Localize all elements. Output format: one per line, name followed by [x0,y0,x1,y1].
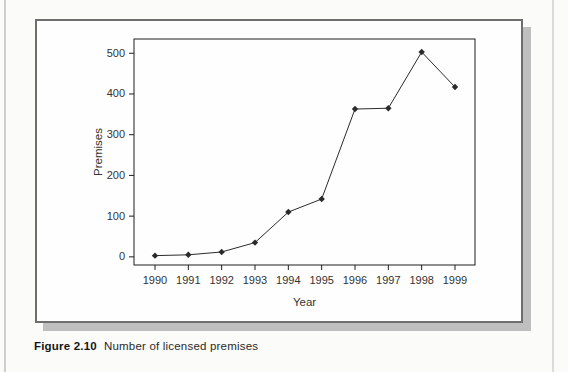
x-tick-label: 1991 [176,274,200,286]
x-tick-label: 1999 [443,274,467,286]
x-tick-label: 1994 [276,274,300,286]
y-tick-label: 400 [107,87,125,99]
x-tick-label: 1998 [409,274,433,286]
y-tick-label: 500 [107,47,125,59]
x-tick-label: 1992 [209,274,233,286]
scanned-page: 0100200300400500199019911992199319941995… [0,0,568,372]
data-point-marker [152,252,158,258]
x-tick-label: 1990 [143,274,167,286]
data-point-marker [318,196,324,202]
data-point-marker [352,106,358,112]
page-edge-right [552,0,554,372]
figure-box: 0100200300400500199019911992199319941995… [35,19,523,323]
x-axis-title: Year [293,296,316,308]
x-tick-label: 1993 [243,274,267,286]
y-axis-title: Premises [92,128,104,176]
x-tick-label: 1995 [309,274,333,286]
y-tick-label: 0 [119,250,125,262]
page-edge-left [4,0,6,372]
x-tick-label: 1996 [343,274,367,286]
figure-caption-text: Number of licensed premises [104,340,258,352]
data-point-marker [385,105,391,111]
y-tick-label: 200 [107,169,125,181]
y-tick-label: 300 [107,128,125,140]
line-chart: 0100200300400500199019911992199319941995… [37,21,521,321]
y-tick-label: 100 [107,210,125,222]
figure-caption-label: Figure 2.10 [34,340,97,352]
x-tick-label: 1997 [376,274,400,286]
data-line [155,52,455,256]
plot-border [134,39,475,265]
data-point-marker [185,252,191,258]
data-point-marker [218,249,224,255]
figure-caption: Figure 2.10Number of licensed premises [34,340,258,352]
